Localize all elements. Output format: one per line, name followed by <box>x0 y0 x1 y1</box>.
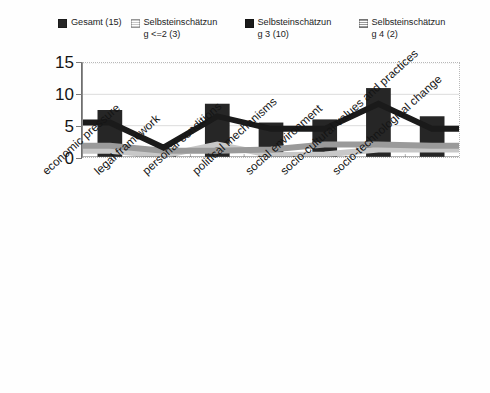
legend-item-gesamt: Gesamt (15) <box>58 17 122 29</box>
legend-swatch-gesamt <box>58 19 67 28</box>
y-axis-tick-5: 5 <box>65 118 74 135</box>
legend-item-selbst-le2: Selbsteinschätzun g <=2 (3) <box>131 17 236 40</box>
x-axis-category-labels: economic pressurelegal frameworkpersonal… <box>0 168 490 338</box>
legend-label-selbst-3: Selbsteinschätzun g 3 (10) <box>258 17 350 40</box>
legend-label-selbst-le2: Selbsteinschätzun g <=2 (3) <box>144 17 236 40</box>
y-axis-tickmark-10 <box>76 94 82 95</box>
legend-item-selbst-4: Selbsteinschätzun g 4 (2) <box>359 17 464 40</box>
legend-item-selbst-3: Selbsteinschätzun g 3 (10) <box>245 17 350 40</box>
y-axis-tick-10: 10 <box>55 86 74 103</box>
legend-swatch-selbst-le2 <box>131 19 140 28</box>
chart-legend: Gesamt (15) Selbsteinschätzun g <=2 (3) … <box>58 17 458 53</box>
legend-swatch-selbst-3 <box>245 19 254 28</box>
y-axis-tick-15: 15 <box>55 54 74 71</box>
y-axis-tickmark-5 <box>76 126 82 127</box>
y-axis-tickmark-15 <box>76 62 82 63</box>
legend-label-selbst-4: Selbsteinschätzun g 4 (2) <box>372 17 464 40</box>
legend-swatch-selbst-4 <box>359 19 368 28</box>
legend-label-gesamt: Gesamt (15) <box>71 17 122 29</box>
y-axis-tickmark-0 <box>76 158 82 159</box>
chart-page: Gesamt (15) Selbsteinschätzun g <=2 (3) … <box>0 0 490 393</box>
